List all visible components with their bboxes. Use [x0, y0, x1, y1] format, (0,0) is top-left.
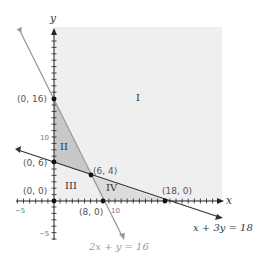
first-quadrant-shade	[54, 27, 222, 201]
label-8-0: (8, 0)	[79, 207, 103, 217]
point-0-0	[52, 199, 57, 204]
point-0-16	[52, 97, 57, 102]
point-18-0	[163, 199, 168, 204]
y-tick-label-10: 10	[40, 134, 49, 142]
label-18-0: (18, 0)	[162, 186, 192, 196]
y-axis-label: y	[49, 12, 57, 24]
x-axis-label: x	[226, 194, 232, 206]
region-label-i: I	[136, 92, 140, 103]
x-tick-label-neg5: −5	[15, 207, 25, 215]
lp-diagram: x y −5 10 −5 10 (0, 16) (0, 6) (6, 4) (0…	[0, 0, 259, 261]
label-0-16: (0, 16)	[17, 94, 47, 104]
label-6-4: (6, 4)	[93, 166, 117, 176]
point-8-0	[101, 199, 106, 204]
x-tick-label-10: 10	[111, 207, 120, 215]
equation-label-2x-y-16: 2x + y = 16	[88, 241, 149, 252]
region-label-iv: IV	[106, 182, 118, 193]
arrow-icon	[215, 214, 223, 220]
arrow-icon	[15, 146, 21, 153]
equation-label-x-3y-18: x + 3y = 18	[193, 222, 253, 233]
region-label-ii: II	[60, 141, 68, 152]
label-0-0: (0, 0)	[23, 186, 47, 196]
arrow-icon	[16, 27, 24, 34]
point-0-6	[52, 160, 57, 165]
label-0-6: (0, 6)	[23, 158, 47, 168]
region-label-iii: III	[65, 180, 77, 191]
y-tick-label-neg5: −5	[39, 230, 49, 238]
arrow-icon	[119, 233, 125, 240]
